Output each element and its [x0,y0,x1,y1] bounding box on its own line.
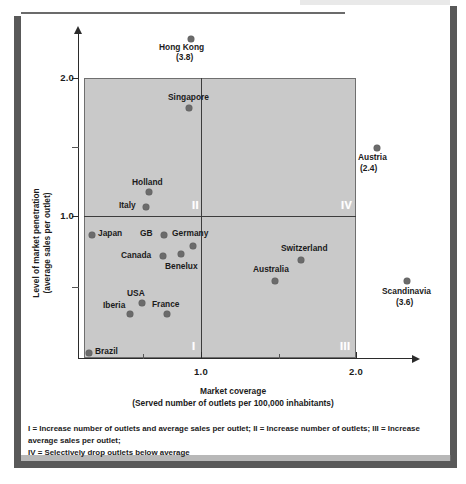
data-point-label: USA [127,288,145,298]
y-axis-line [78,32,79,359]
data-point-value-note: (2.4) [360,163,377,173]
y-axis-tick-label: 2.0 [48,72,74,83]
data-point-marker [186,105,192,111]
top-ghost-band [300,0,450,5]
data-point-marker [160,253,166,259]
x-axis-title: Market coverage (Served number of outlet… [83,386,383,409]
x-axis-tick-mark [201,352,202,359]
quadrant-label-iv: IV [341,199,352,211]
data-point-label: Austria [358,152,387,162]
data-point-marker [89,232,95,238]
data-point-marker [127,311,133,317]
data-point-label: Australia [253,264,289,274]
footnote-line-1: I = Increase number of outlets and avera… [28,423,432,447]
x-axis-title-line1: Market coverage [83,386,383,398]
data-point-label: Italy [119,200,136,210]
data-point-marker [298,257,304,263]
quadrant-label-iii: III [340,340,351,352]
y-axis-title-line2: (average sales per outlet) [42,168,53,318]
x-axis-tick-mark [279,354,280,359]
data-point-marker [146,189,152,195]
data-point-marker [139,300,145,306]
data-point-marker [272,278,278,284]
data-point-marker [164,311,170,317]
quadrant-legend-footnote: I = Increase number of outlets and avera… [28,423,432,459]
quadrant-divider-vertical [201,78,202,359]
x-axis-line [78,358,414,359]
data-point-label: Germany [172,228,208,238]
y-axis-title: Level of market penetration (average sal… [31,168,53,318]
data-point-value-note: (3.6) [396,297,413,307]
data-point-label: Canada [121,250,151,260]
x-axis-arrow [412,355,420,363]
x-axis-tick-mark [143,354,144,359]
data-point-label: Scandinavia [382,286,431,296]
figure-container: 2.01.01.02.0 IIIIIIIV Hong Kong(3.8)Sing… [0,0,466,484]
data-point-label: Singapore [168,92,209,102]
quadrant-label-i: I [192,340,196,352]
y-axis-arrow [74,26,82,34]
top-divider-rule [21,12,345,14]
data-point-marker [404,278,410,284]
y-axis-title-line1: Level of market penetration [31,168,42,318]
data-point-label: France [152,299,179,309]
y-axis-tick-mark [72,147,79,148]
quadrant-label-ii: II [192,199,199,211]
x-axis-tick-label: 1.0 [188,366,214,377]
quadrant-divider-horizontal [84,216,356,217]
data-point-marker [178,251,184,257]
data-point-marker [86,350,92,356]
x-axis-title-line2: (Served number of outlets per 100,000 in… [83,398,383,410]
data-point-label: Benelux [165,261,198,271]
data-point-marker [161,232,167,238]
data-point-label: Holland [132,177,163,187]
data-point-label: Brazil [95,346,118,356]
data-point-marker [190,243,196,249]
frame-border-bottom [14,461,457,468]
data-point-marker [143,204,149,210]
data-point-value-note: (3.8) [176,52,193,62]
y-axis-tick-mark [72,287,79,288]
data-point-label: Japan [98,228,122,238]
data-point-label: Iberia [103,300,125,310]
data-point-marker [374,145,380,151]
x-axis-tick-mark [356,352,357,359]
frame-border-left [14,16,21,468]
x-axis-tick-label: 2.0 [343,366,369,377]
frame-border-right [450,6,457,468]
data-point-label: Switzerland [281,243,328,253]
data-point-label: GB [140,228,153,238]
plot-area [84,78,356,358]
data-point-label: Hong Kong [159,42,204,52]
footnote-line-2: IV = Selectively drop outlets below aver… [28,447,432,459]
